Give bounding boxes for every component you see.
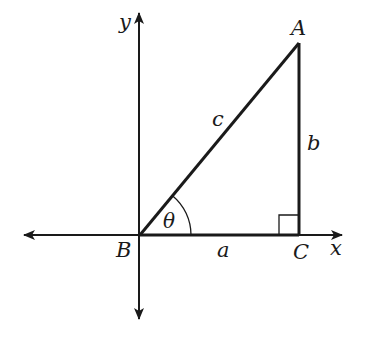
right-angle-marker [279, 215, 299, 235]
x-axis-label: x [330, 238, 342, 259]
vertex-a-label: A [291, 18, 306, 39]
vertex-b-label: B [116, 240, 131, 261]
y-axis-label: y [119, 12, 131, 33]
triangle-diagram [0, 0, 366, 340]
side-c-label: c [212, 109, 224, 130]
side-a-label: a [217, 240, 230, 261]
angle-theta-label: θ [163, 211, 175, 231]
vertex-c-label: C [293, 242, 309, 263]
side-b-label: b [307, 133, 320, 154]
side-c-hypotenuse [140, 43, 299, 235]
angle-theta-arc [173, 196, 192, 235]
